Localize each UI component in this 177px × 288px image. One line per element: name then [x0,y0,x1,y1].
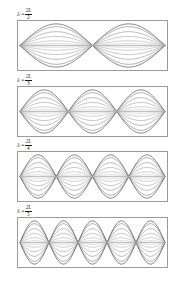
fraction-numerator: 2L [25,205,31,210]
plot-frame-3 [17,86,168,137]
wavelength-fraction: 2L3 [25,74,31,86]
wavelength-label-4: λ=2L4 [17,140,32,151]
wavelength-label-5: λ=2L5 [17,206,32,217]
fraction-numerator: 2L [25,139,31,144]
fraction-numerator: 2L [25,8,31,13]
equals-symbol: = [21,209,24,215]
figure-root: λ=2L2λ=2L3λ=2L4λ=2L5 [0,0,177,288]
lambda-symbol: λ [17,208,20,214]
equals-symbol: = [21,78,24,84]
plot-frame-4 [17,151,168,202]
lambda-symbol: λ [17,77,20,83]
fraction-numerator: 2L [25,74,31,79]
wavelength-fraction: 2L2 [25,8,31,20]
plot-frame-2 [17,20,168,71]
equals-symbol: = [21,143,24,149]
lambda-symbol: λ [17,11,20,17]
wavelength-label-3: λ=2L3 [17,75,32,86]
plot-frame-5 [17,217,168,268]
lambda-symbol: λ [17,142,20,148]
wavelength-fraction: 2L4 [25,139,31,151]
wavelength-fraction: 2L5 [25,205,31,217]
equals-symbol: = [21,12,24,18]
wavelength-label-2: λ=2L2 [17,9,32,20]
